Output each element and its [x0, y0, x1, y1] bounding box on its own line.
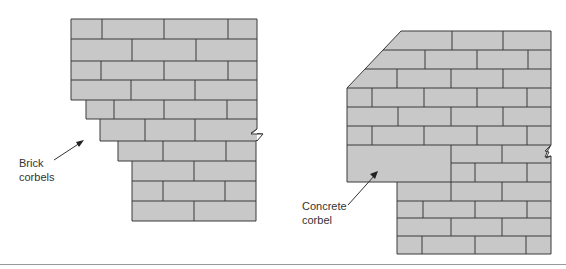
brick-corbels-label: Brick corbels: [19, 156, 54, 184]
corbel-diagram: [0, 0, 566, 269]
concrete-corbel-label: Concrete corbel: [302, 199, 347, 227]
right-brick-wall: [347, 31, 551, 254]
left-brick-wall: [71, 19, 263, 221]
arrow-icon: [54, 140, 84, 160]
divider: [0, 264, 566, 265]
